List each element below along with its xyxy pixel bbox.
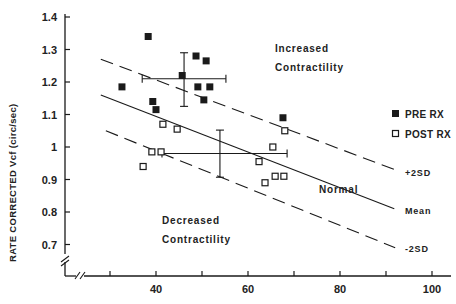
x-tick-label: 60 [242, 283, 254, 295]
post-rx-point [158, 149, 164, 155]
plus-2sd-label: +2SD [405, 168, 431, 178]
x-tick-label: 40 [150, 283, 162, 295]
post-rx-point [149, 149, 155, 155]
pre-rx-point [193, 53, 200, 60]
post-rx-point [282, 128, 288, 134]
minus-2sd-label: -2SD [405, 244, 429, 254]
post-rx-point [272, 173, 278, 179]
increased-label-line1: Increased [275, 43, 329, 54]
decreased-label-line2: Contractility [162, 234, 231, 245]
y-tick-label: 1 [51, 141, 57, 153]
y-tick-label: 1.3 [42, 44, 57, 56]
legend-pre-rx: PRE RX [405, 109, 444, 120]
chart-canvas: 4060801000.70.80.911.11.21.31.4 RATE COR… [0, 0, 456, 304]
pre-rx-point [203, 57, 210, 64]
post-rx-point [262, 180, 268, 186]
legend-filled-square-icon [392, 110, 399, 117]
x-axis-break-icon [75, 272, 85, 279]
y-axis-label: RATE CORRECTED Vcf (circ/sec) [7, 104, 18, 262]
legend: PRE RX POST RX [392, 109, 451, 140]
y-tick-label: 1.2 [42, 76, 57, 88]
pre-rx-point [206, 83, 213, 90]
vcf-scatter-chart: 4060801000.70.80.911.11.21.31.4 RATE COR… [0, 0, 456, 304]
pre-rx-point [279, 114, 286, 121]
legend-open-square-icon [393, 131, 399, 137]
legend-post-rx: POST RX [405, 129, 451, 140]
post-rx-point [140, 164, 146, 170]
y-tick-label: 0.7 [42, 239, 57, 251]
post-rx-point [270, 144, 276, 150]
pre-rx-point [145, 33, 152, 40]
normal-label: Normal [319, 184, 358, 195]
increased-label-line2: Contractility [275, 62, 344, 73]
error-cross [162, 130, 287, 177]
pre-rx-point [149, 98, 156, 105]
post-rx-point [160, 121, 166, 127]
pre-rx-point [179, 72, 186, 79]
pre-rx-point [194, 83, 201, 90]
x-tick-label: 80 [334, 283, 346, 295]
y-tick-label: 0.8 [42, 206, 57, 218]
mean-label: Mean [405, 206, 431, 216]
pre-rx-point [153, 106, 160, 113]
post-rx-point [174, 126, 180, 132]
y-tick-label: 1.1 [42, 109, 57, 121]
post-rx-point [256, 159, 262, 165]
x-tick-label: 100 [423, 283, 441, 295]
pre-rx-point [200, 96, 207, 103]
y-tick-label: 0.9 [42, 174, 57, 186]
data-points [118, 33, 287, 186]
y-tick-label: 1.4 [42, 11, 58, 23]
pre-rx-point [118, 83, 125, 90]
decreased-label-line1: Decreased [162, 215, 220, 226]
post-rx-point [281, 173, 287, 179]
